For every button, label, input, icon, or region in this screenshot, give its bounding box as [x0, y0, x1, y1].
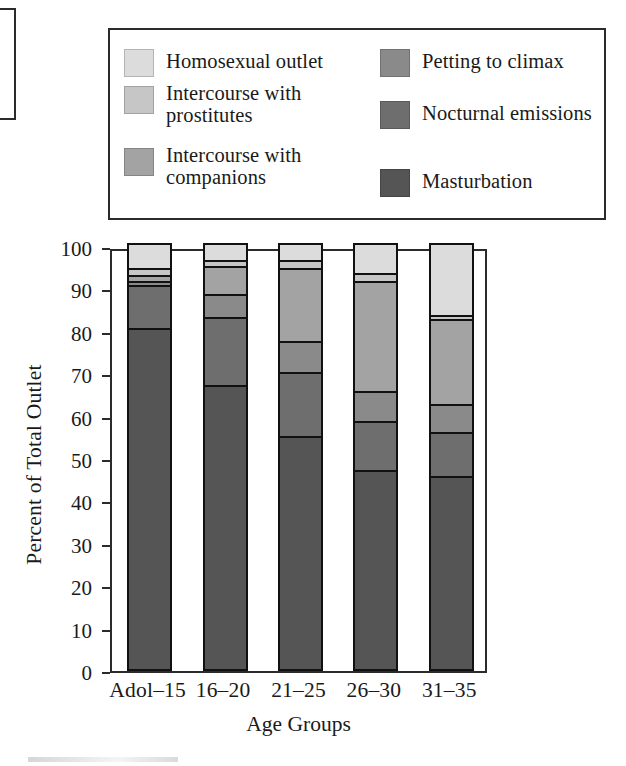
bar-adol-15: [127, 243, 172, 671]
legend-label-line1: Petting to climax: [422, 50, 564, 72]
y-tick-mark: [102, 248, 110, 250]
legend-item-masturbation: Masturbation: [380, 144, 592, 218]
segment-homosexual-outlet: [355, 245, 396, 275]
legend-item-intercourse-with-companions: Intercourse withcompanions: [124, 144, 380, 218]
y-tick-label: 20: [71, 578, 92, 599]
legend-swatch-intercourse-with-prostitutes: [124, 86, 154, 114]
legend-label-line1: Masturbation: [422, 170, 533, 192]
legend-item-homosexual-outlet: Homosexual outlet: [124, 40, 380, 82]
legend-label-line1: Homosexual outlet: [166, 50, 323, 72]
legend-swatch-nocturnal-emissions: [380, 101, 410, 129]
segment-masturbation: [355, 472, 396, 669]
segment-nocturnal-emissions: [205, 319, 246, 387]
stacked-bars: [112, 251, 485, 671]
y-tick-label: 70: [71, 366, 92, 387]
legend-label-line1: Intercourse with: [166, 82, 301, 104]
legend-item-nocturnal-emissions: Nocturnal emissions: [380, 82, 592, 144]
y-tick-mark: [102, 375, 110, 377]
segment-intercourse-with-companions: [205, 268, 246, 296]
segment-intercourse-with-companions: [280, 270, 321, 342]
segment-intercourse-with-prostitutes: [355, 275, 396, 283]
legend-label-line1: Intercourse with: [166, 144, 301, 166]
segment-nocturnal-emissions: [280, 374, 321, 438]
legend-label-line1: Nocturnal emissions: [422, 102, 592, 124]
y-tick-label: 50: [71, 451, 92, 472]
plot-area: [110, 249, 487, 673]
y-tick-mark: [102, 460, 110, 462]
legend-label-intercourse-with-companions: Intercourse withcompanions: [166, 144, 301, 188]
x-tick-label: 31–35: [404, 678, 494, 703]
y-tick-mark: [102, 418, 110, 420]
bar-31-35: [429, 243, 474, 671]
segment-homosexual-outlet: [431, 245, 472, 317]
y-tick-label: 100: [61, 239, 93, 260]
segment-petting-to-climax: [205, 296, 246, 319]
y-tick-label: 60: [71, 408, 92, 429]
segment-masturbation: [280, 438, 321, 669]
legend-grid: Homosexual outletPetting to climaxInterc…: [110, 30, 604, 218]
y-tick-mark: [102, 333, 110, 335]
y-tick-label: 90: [71, 281, 92, 302]
legend-label-homosexual-outlet: Homosexual outlet: [166, 50, 323, 73]
segment-intercourse-with-companions: [355, 283, 396, 393]
segment-petting-to-climax: [355, 393, 396, 423]
y-axis-label: Percent of Total Outlet: [22, 335, 47, 595]
segment-nocturnal-emissions: [129, 287, 170, 329]
y-tick-mark: [102, 630, 110, 632]
legend-swatch-petting-to-climax: [380, 49, 410, 77]
y-tick-mark: [102, 545, 110, 547]
legend-swatch-masturbation: [380, 169, 410, 197]
x-axis-label: Age Groups: [110, 712, 487, 737]
segment-nocturnal-emissions: [431, 434, 472, 479]
legend-label-masturbation: Masturbation: [422, 170, 533, 193]
legend-label-intercourse-with-prostitutes: Intercourse withprostitutes: [166, 82, 301, 126]
y-tick-label: 80: [71, 323, 92, 344]
bar-26-30: [353, 243, 398, 671]
segment-masturbation: [205, 387, 246, 669]
legend-item-intercourse-with-prostitutes: Intercourse withprostitutes: [124, 82, 380, 144]
segment-intercourse-with-companions: [431, 321, 472, 406]
segment-petting-to-climax: [280, 343, 321, 375]
chart-legend: Homosexual outletPetting to climaxInterc…: [108, 28, 606, 220]
y-tick-mark: [102, 672, 110, 674]
legend-item-petting-to-climax: Petting to climax: [380, 40, 592, 82]
legend-label-nocturnal-emissions: Nocturnal emissions: [422, 102, 592, 125]
segment-petting-to-climax: [431, 406, 472, 434]
segment-nocturnal-emissions: [355, 423, 396, 472]
y-tick-label: 10: [71, 620, 92, 641]
y-tick-label: 0: [82, 663, 93, 684]
y-tick-label: 30: [71, 535, 92, 556]
legend-label-line2: companions: [166, 167, 301, 189]
segment-homosexual-outlet: [205, 245, 246, 262]
y-tick-mark: [102, 290, 110, 292]
legend-swatch-homosexual-outlet: [124, 49, 154, 77]
segment-masturbation: [431, 478, 472, 669]
bar-16-20: [203, 243, 248, 671]
segment-homosexual-outlet: [129, 245, 170, 270]
legend-swatch-intercourse-with-companions: [124, 148, 154, 176]
segment-masturbation: [129, 330, 170, 669]
y-tick-label: 40: [71, 493, 92, 514]
bar-21-25: [278, 243, 323, 671]
legend-label-line2: prostitutes: [166, 105, 301, 127]
y-tick-mark: [102, 587, 110, 589]
segment-intercourse-with-prostitutes: [280, 262, 321, 270]
legend-label-petting-to-climax: Petting to climax: [422, 50, 564, 73]
y-axis: 0102030405060708090100: [0, 0, 110, 766]
y-tick-mark: [102, 502, 110, 504]
segment-homosexual-outlet: [280, 245, 321, 262]
